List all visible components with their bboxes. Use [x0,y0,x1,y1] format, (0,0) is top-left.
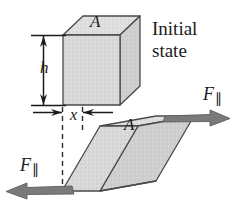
displacement-label-x: x [70,106,77,125]
cube-initial-state [63,16,140,105]
cube-front-face [63,35,120,105]
force-symbol-top: F [203,84,214,104]
initial-state-line-2: state [152,40,197,62]
area-label-sheared-block: A [124,115,134,135]
initial-state-caption: Initial state [152,18,197,63]
force-arrow-bottom [6,183,74,199]
height-label-h: h [40,58,49,78]
force-subscript-parallel-bottom: ∥ [31,161,38,177]
force-subscript-parallel-top: ∥ [214,90,221,106]
force-symbol-bottom: F [20,155,31,175]
force-arrow-bottom-shape [6,183,74,199]
force-label-top-right: F∥ [203,84,221,107]
dimension-h [31,36,66,106]
initial-state-line-1: Initial [152,18,197,40]
area-label-top-cube: A [90,12,100,32]
shear-deformation-figure: A Initial state h x A F∥ F∥ [0,0,235,208]
force-label-bottom-left: F∥ [20,155,38,178]
